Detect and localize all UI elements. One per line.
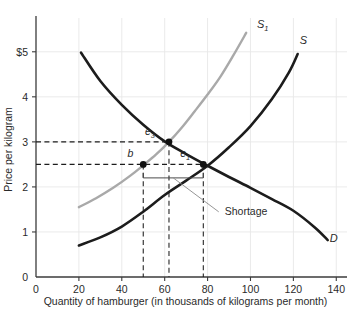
curve-d <box>81 53 328 240</box>
curve-label-s: S <box>300 34 308 46</box>
point-marker-e-1 <box>200 161 207 168</box>
x-tick-label: 20 <box>73 283 85 295</box>
x-tick-label: 80 <box>202 283 214 295</box>
supply-demand-chart: 02040608010012014001234$5 e1e3b DSS1 Sho… <box>0 0 355 314</box>
equilibrium-points: e1e3b <box>127 125 206 168</box>
y-tick-label: 1 <box>22 226 28 238</box>
point-label-e-3: e3 <box>145 125 156 140</box>
x-tick-label: 40 <box>116 283 128 295</box>
chart-canvas: 02040608010012014001234$5 e1e3b DSS1 Sho… <box>0 0 355 314</box>
guide-lines <box>36 142 203 277</box>
curve-s-1 <box>79 33 246 207</box>
y-tick-label: $5 <box>16 46 28 58</box>
annotations: Shortage <box>225 205 268 217</box>
curve-label-d: D <box>330 232 338 244</box>
tick-labels: 02040608010012014001234$5 <box>16 46 345 295</box>
point-label-e-1: e1 <box>180 147 190 162</box>
point-label-b: b <box>127 147 133 159</box>
y-tick-label: 4 <box>22 91 28 103</box>
curves <box>79 33 328 246</box>
x-tick-label: 120 <box>285 283 303 295</box>
x-tick-label: 100 <box>242 283 260 295</box>
annotation-shortage: Shortage <box>225 205 268 217</box>
curve-label-s-1: S1 <box>257 18 269 33</box>
shortage-leader-line <box>173 178 218 212</box>
x-axis-title: Quantity of hamburger (in thousands of k… <box>44 295 328 307</box>
point-marker-e-3 <box>166 138 173 145</box>
y-axis-title: Price per kilogram <box>2 107 14 192</box>
x-tick-label: 140 <box>328 283 346 295</box>
y-tick-label: 3 <box>22 136 28 148</box>
y-tick-label: 2 <box>22 181 28 193</box>
x-tick-label: 0 <box>33 283 39 295</box>
point-marker-b <box>140 161 147 168</box>
y-tick-label: 0 <box>22 271 28 283</box>
x-tick-label: 60 <box>159 283 171 295</box>
